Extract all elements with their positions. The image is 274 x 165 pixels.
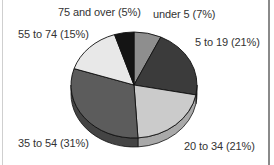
label-55-to-74: 55 to 74 (15%) [18, 28, 89, 40]
label-under-5: under 5 (7%) [153, 8, 215, 20]
label-20-to-34: 20 to 34 (21%) [184, 140, 255, 152]
label-5-to-19: 5 to 19 (21%) [195, 36, 260, 48]
label-35-to-54: 35 to 54 (31%) [18, 137, 89, 149]
label-75-and-over: 75 and over (5%) [58, 6, 141, 18]
